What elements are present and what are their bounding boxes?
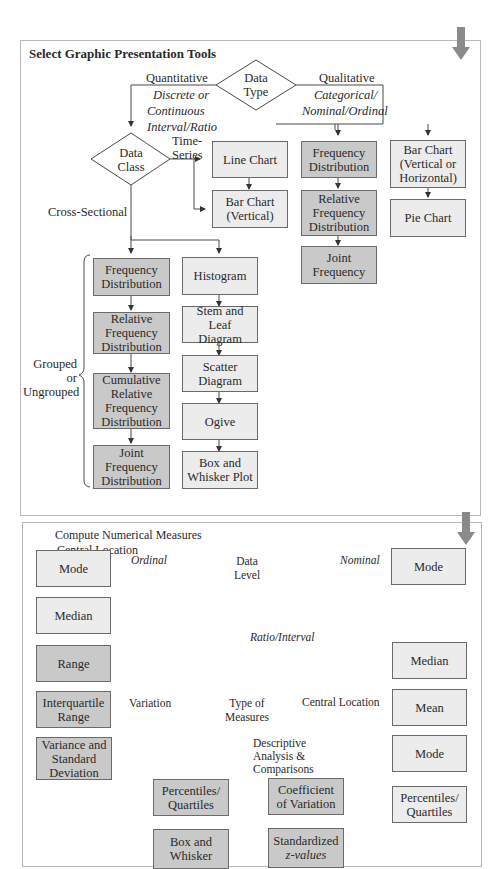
variance-and-standard-deviation-box: Variance and Standard Deviation (36, 737, 112, 780)
standardized-z-values-box: Standardized z-values (268, 828, 344, 868)
time-series-label: Time- Series (172, 134, 203, 162)
box-label: Line Chart (223, 153, 277, 167)
ratio-interval-label: Ratio/Interval (250, 630, 315, 644)
label-line: Comparisons (253, 763, 314, 776)
box-label: Stem and Leaf (185, 304, 255, 332)
qual-frequency-distribution-box: Frequency Distribution (301, 141, 377, 178)
box-label: Ogive (205, 415, 236, 429)
label-line: Descriptive (253, 737, 314, 750)
frequency-distribution-box: Frequency Distribution (93, 258, 170, 296)
box-label: Frequency (105, 326, 158, 340)
grouped-or-ungrouped-label: Grouped or Ungrouped (23, 357, 77, 399)
box-label: Cumulative (102, 373, 160, 387)
box-label: Standardized (273, 834, 338, 848)
decision-label: Level (217, 568, 277, 582)
box-label: Range (58, 657, 90, 671)
variation-label: Variation (129, 696, 171, 710)
percentiles-quartiles-descriptive-box: Percentiles/ Quartiles (153, 779, 229, 816)
qual-joint-frequency-box: Joint Frequency (301, 246, 377, 284)
box-label: (Vertical or (400, 157, 457, 171)
qualitative-sub-label: Categorical/ (314, 88, 377, 102)
qual-relative-frequency-distribution-box: Relative Frequency Distribution (301, 190, 377, 236)
box-label: Quartiles (168, 798, 214, 812)
label-line: Ungrouped (23, 385, 77, 399)
label-line: Analysis & (253, 750, 314, 763)
box-and-whisker-plot-box: Box and Whisker Plot (182, 451, 258, 489)
decision-label: Class (101, 160, 161, 174)
cross-sectional-label: Cross-Sectional (48, 205, 127, 219)
box-label: Distribution (101, 415, 161, 429)
box-label: Distribution (101, 277, 161, 291)
box-label: Mean (415, 701, 443, 715)
box-label: Bar Chart (226, 195, 275, 209)
box-label: Relative (318, 192, 360, 206)
box-label: Whisker Plot (187, 470, 253, 484)
pie-chart-box: Pie Chart (390, 199, 466, 237)
box-label: Deviation (49, 766, 98, 780)
box-label: Distribution (309, 160, 369, 174)
qualitative-sub-label: Nominal/Ordinal (302, 104, 388, 118)
scatter-diagram-box: Scatter Diagram (182, 355, 258, 392)
quantitative-label: Quantitative (146, 71, 208, 85)
range-box: Range (36, 645, 111, 682)
box-label: Box and (170, 835, 212, 849)
nominal-label: Nominal (340, 553, 380, 567)
decision-label: Data (101, 146, 161, 160)
decision-label: Data (217, 554, 277, 568)
box-label: Horizontal) (399, 171, 457, 185)
interquartile-range-box: Interquartile Range (36, 691, 111, 728)
percentiles-quartiles-box: Percentiles/ Quartiles (392, 786, 467, 823)
type-of-measures-decision: Type of Measures (212, 696, 282, 724)
box-label: Pie Chart (405, 211, 452, 225)
data-level-decision: Data Level (217, 554, 277, 582)
box-label: Joint (327, 251, 351, 265)
box-label: Box and (199, 456, 241, 470)
box-label: Relative (111, 312, 153, 326)
box-label: Frequency (105, 460, 158, 474)
box-label: Frequency (313, 265, 366, 279)
box-label: Median (410, 654, 448, 668)
joint-frequency-distribution-box: Joint Frequency Distribution (93, 445, 170, 489)
ordinal-median-box: Median (36, 597, 111, 634)
cumulative-relative-frequency-distribution-box: Cumulative Relative Frequency Distributi… (93, 373, 170, 429)
box-label: Frequency (313, 206, 366, 220)
box-label: Mode (414, 560, 443, 574)
box-label: Quartiles (407, 805, 453, 819)
box-label: Coefficient (278, 783, 334, 797)
bar-chart-vertical-box: Bar Chart (Vertical) (212, 190, 288, 228)
panel-title: Compute Numerical Measures (55, 528, 202, 543)
box-label: Distribution (309, 220, 369, 234)
box-label: Percentiles/ (162, 784, 220, 798)
box-label: Interquartile (43, 696, 105, 710)
box-label: Distribution (101, 340, 161, 354)
quantitative-sub-label: Interval/Ratio (147, 120, 217, 134)
label-line: Series (172, 148, 203, 162)
decision-label: Measures (212, 710, 282, 724)
box-label: Frequency (105, 263, 158, 277)
box-label: Relative (111, 387, 153, 401)
box-label: Range (58, 710, 90, 724)
label-line: Time- (172, 134, 203, 148)
ordinal-label: Ordinal (131, 553, 167, 567)
label-line: Grouped (23, 357, 77, 371)
box-label: Frequency (313, 146, 366, 160)
decision-label: Type (226, 85, 286, 99)
box-label: Scatter (203, 360, 238, 374)
qualitative-label: Qualitative (319, 71, 375, 85)
bar-chart-vertical-or-horizontal-box: Bar Chart (Vertical or Horizontal) (390, 140, 466, 188)
coefficient-of-variation-box: Coefficient of Variation (268, 778, 344, 815)
box-label: of Variation (276, 797, 335, 811)
mean-box: Mean (392, 689, 467, 726)
box-label: Whisker (170, 849, 212, 863)
descriptive-analysis-label: Descriptive Analysis & Comparisons (253, 737, 314, 776)
box-label: Mode (415, 747, 444, 761)
box-label: Mode (59, 562, 88, 576)
data-type-decision: Data Type (226, 71, 286, 99)
mode-box: Mode (392, 735, 467, 772)
box-label: Standard (52, 752, 96, 766)
quantitative-sub-label: Continuous (147, 104, 205, 118)
central-location-label: Central Location (302, 695, 380, 709)
box-label: Histogram (194, 269, 247, 283)
ordinal-mode-box: Mode (36, 550, 111, 587)
box-label: Diagram (198, 332, 242, 346)
